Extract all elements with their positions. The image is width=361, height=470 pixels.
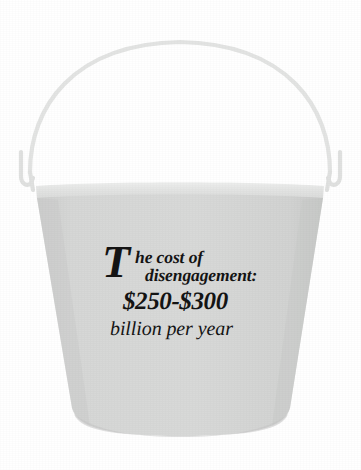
caption-line-4-units: billion per year	[110, 318, 233, 340]
caption-line-2: disengagement:	[145, 266, 257, 285]
left-hook-stem	[30, 172, 33, 190]
bucket-illustration	[0, 0, 361, 470]
right-hook-stem	[327, 172, 330, 190]
caption-line-3-amount: $250-$300	[123, 288, 228, 315]
illustration-canvas: T he cost of disengagement: $250-$300 bi…	[0, 0, 361, 470]
caption-dropcap: T	[102, 239, 129, 285]
caption-text-block: T he cost of disengagement: $250-$300 bi…	[98, 240, 288, 356]
bucket-handle	[30, 42, 330, 172]
